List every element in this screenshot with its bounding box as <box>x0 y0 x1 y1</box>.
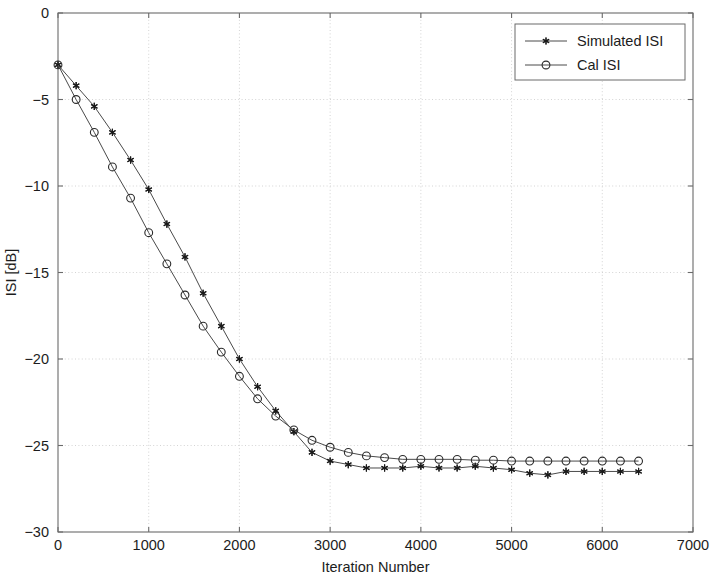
isi-convergence-chart: 01000200030004000500060007000 −30−25−20−… <box>0 0 715 575</box>
y-axis-label: ISI [dB] <box>3 249 19 297</box>
data-series-group <box>54 61 642 479</box>
series-cal-isi <box>54 61 642 465</box>
x-tick-label: 1000 <box>133 537 165 553</box>
star-icon <box>218 323 224 330</box>
x-tick-label: 6000 <box>586 537 618 553</box>
chart-figure: 01000200030004000500060007000 −30−25−20−… <box>0 0 715 575</box>
series-markers <box>54 61 642 465</box>
gridlines <box>58 13 693 532</box>
y-tick-label: −15 <box>24 265 49 281</box>
star-icon <box>182 253 188 260</box>
y-tick-label: −5 <box>32 92 49 108</box>
series-simulated-isi <box>55 61 642 478</box>
x-tick-label: 0 <box>54 537 62 553</box>
x-tick-label: 3000 <box>314 537 346 553</box>
y-tick-label: −10 <box>24 178 49 194</box>
y-tick-label: −30 <box>24 524 49 540</box>
star-icon <box>146 186 152 193</box>
series-polyline <box>58 65 639 461</box>
star-icon <box>164 220 170 227</box>
chart-legend: Simulated ISICal ISI <box>515 24 685 80</box>
legend-label: Cal ISI <box>577 57 621 73</box>
y-tick-label: 0 <box>41 5 49 21</box>
series-polyline <box>58 65 639 475</box>
x-tick-label: 4000 <box>405 537 437 553</box>
star-icon <box>200 290 206 297</box>
y-tick-label: −25 <box>24 438 49 454</box>
x-axis-label: Iteration Number <box>322 559 430 575</box>
series-markers <box>55 61 642 478</box>
x-axis-ticks: 01000200030004000500060007000 <box>54 13 709 553</box>
y-tick-label: −20 <box>24 351 49 367</box>
x-tick-label: 2000 <box>223 537 255 553</box>
legend-label: Simulated ISI <box>577 33 663 49</box>
x-tick-label: 7000 <box>677 537 709 553</box>
x-tick-label: 5000 <box>495 537 527 553</box>
